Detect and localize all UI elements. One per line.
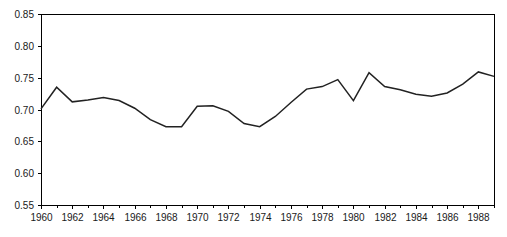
y-tick-label: 0.70: [15, 105, 35, 116]
chart-container: 0.550.600.650.700.750.800.85 19601962196…: [0, 0, 507, 237]
y-tick-label: 0.85: [15, 9, 35, 20]
line-chart: 0.550.600.650.700.750.800.85 19601962196…: [0, 0, 507, 237]
x-tick-label: 1976: [280, 212, 303, 223]
x-tick-label: 1988: [467, 212, 490, 223]
x-tick-label: 1978: [311, 212, 334, 223]
x-tick-label: 1960: [30, 212, 53, 223]
x-axis-tick-labels: 1960196219641966196819701972197419761978…: [30, 212, 490, 223]
x-tick-label: 1982: [374, 212, 397, 223]
data-line-series-1: [41, 72, 494, 127]
y-tick-label: 0.55: [15, 200, 35, 211]
y-axis-ticks: [38, 15, 41, 206]
x-tick-label: 1970: [186, 212, 209, 223]
y-tick-label: 0.65: [15, 136, 35, 147]
data-series-group: [41, 72, 494, 127]
x-tick-label: 1986: [436, 212, 459, 223]
y-tick-label: 0.60: [15, 168, 35, 179]
x-tick-label: 1974: [249, 212, 272, 223]
y-tick-label: 0.75: [15, 73, 35, 84]
x-tick-label: 1966: [124, 212, 147, 223]
x-tick-label: 1964: [92, 212, 115, 223]
x-tick-label: 1968: [155, 212, 178, 223]
x-tick-label: 1962: [61, 212, 84, 223]
plot-border: [42, 15, 495, 206]
plot-frame: [42, 15, 495, 206]
y-tick-label: 0.80: [15, 41, 35, 52]
x-tick-label: 1972: [217, 212, 240, 223]
x-tick-label: 1980: [342, 212, 365, 223]
y-axis-tick-labels: 0.550.600.650.700.750.800.85: [15, 9, 35, 211]
x-tick-label: 1984: [405, 212, 428, 223]
